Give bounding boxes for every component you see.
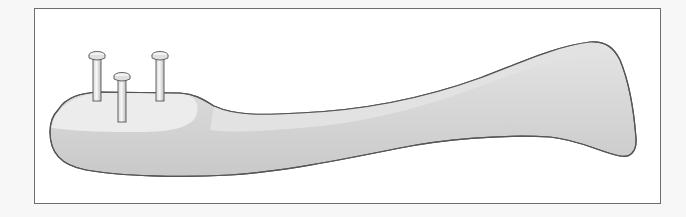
bone-illustration [0,0,686,217]
bone-shape [50,42,636,176]
illustration-stage [0,0,686,217]
